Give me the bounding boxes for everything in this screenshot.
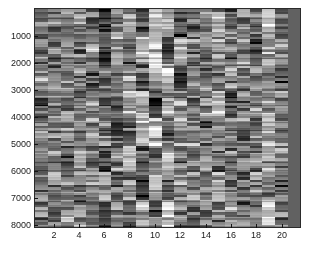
y-tick-mark-7000 bbox=[34, 198, 38, 199]
x-tick-label-8: 8 bbox=[118, 231, 142, 240]
x-tick-mark-18 bbox=[256, 224, 257, 228]
y-tick-label-4000: 4000 bbox=[0, 113, 31, 122]
y-tick-mark-1000 bbox=[34, 36, 38, 37]
y-tick-label-5000: 5000 bbox=[0, 140, 31, 149]
y-tick-label-1000: 1000 bbox=[0, 32, 31, 41]
x-tick-label-12: 12 bbox=[168, 231, 192, 240]
y-tick-label-2000: 2000 bbox=[0, 59, 31, 68]
heatmap-plot-area[interactable] bbox=[34, 8, 301, 228]
y-tick-mark-5000 bbox=[34, 144, 38, 145]
y-tick-label-8000: 8000 bbox=[0, 221, 31, 230]
x-tick-mark-4 bbox=[79, 224, 80, 228]
x-tick-label-2: 2 bbox=[42, 231, 66, 240]
x-tick-label-6: 6 bbox=[92, 231, 116, 240]
y-tick-mark-4000 bbox=[34, 117, 38, 118]
y-tick-label-6000: 6000 bbox=[0, 167, 31, 176]
x-tick-label-14: 14 bbox=[194, 231, 218, 240]
y-tick-label-7000: 7000 bbox=[0, 194, 31, 203]
heatmap-figure: 1000 2000 3000 4000 5000 6000 7000 8000 … bbox=[0, 0, 316, 253]
heatmap-image bbox=[35, 9, 300, 227]
x-tick-mark-20 bbox=[282, 224, 283, 228]
x-tick-label-10: 10 bbox=[143, 231, 167, 240]
x-tick-mark-10 bbox=[155, 224, 156, 228]
x-tick-mark-12 bbox=[180, 224, 181, 228]
x-tick-mark-14 bbox=[206, 224, 207, 228]
x-tick-mark-16 bbox=[231, 224, 232, 228]
x-tick-label-18: 18 bbox=[244, 231, 268, 240]
x-tick-mark-8 bbox=[130, 224, 131, 228]
y-tick-mark-6000 bbox=[34, 171, 38, 172]
x-tick-mark-6 bbox=[104, 224, 105, 228]
y-tick-label-3000: 3000 bbox=[0, 86, 31, 95]
y-tick-mark-2000 bbox=[34, 63, 38, 64]
x-tick-label-20: 20 bbox=[270, 231, 294, 240]
x-tick-label-16: 16 bbox=[219, 231, 243, 240]
y-tick-mark-3000 bbox=[34, 90, 38, 91]
x-tick-label-4: 4 bbox=[67, 231, 91, 240]
x-tick-mark-2 bbox=[54, 224, 55, 228]
y-tick-mark-8000 bbox=[34, 225, 38, 226]
